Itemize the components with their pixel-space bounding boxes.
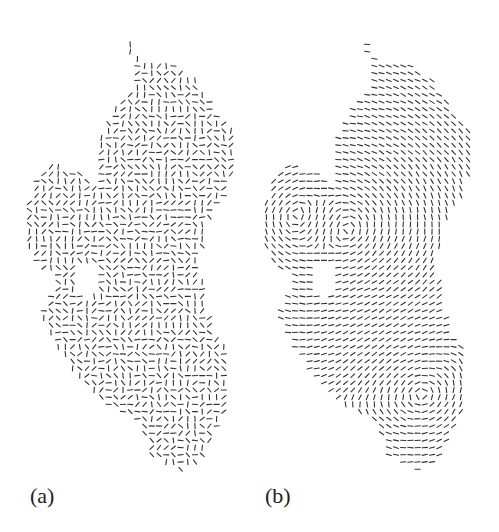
panel-b bbox=[265, 44, 470, 469]
panel-label-b: (b) bbox=[265, 483, 291, 509]
panel-label-a: (a) bbox=[30, 483, 54, 509]
orientation-field-plot bbox=[0, 0, 499, 532]
panel-a bbox=[27, 42, 233, 471]
figure: (a) (b) bbox=[0, 0, 499, 532]
